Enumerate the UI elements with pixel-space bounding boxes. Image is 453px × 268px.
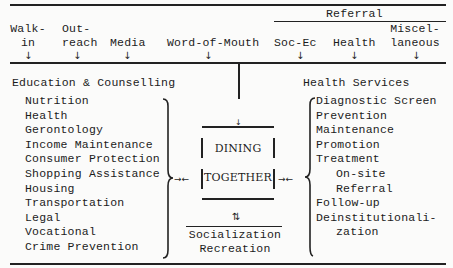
arrow-down-icon: ↓ bbox=[24, 51, 32, 61]
arrow-down-icon: ↓ bbox=[204, 51, 212, 61]
source-media: Media bbox=[110, 36, 146, 50]
list-item: Prevention bbox=[316, 109, 437, 124]
list-item: Vocational bbox=[25, 225, 160, 240]
bottom-rule bbox=[10, 263, 446, 265]
source-word-of-mouth: Word-of-Mouth bbox=[167, 36, 259, 50]
list-item: Follow-up bbox=[316, 196, 437, 211]
right-brace-icon bbox=[162, 98, 174, 260]
dining-box-top bbox=[202, 126, 274, 128]
arrow-down-icon: ↓ bbox=[73, 51, 81, 61]
socialization-label: Socialization bbox=[180, 228, 290, 242]
list-item: Nutrition bbox=[25, 94, 160, 109]
list-item: Diagnostic Screen bbox=[316, 94, 437, 109]
source-miscellaneous: Miscel- laneous bbox=[386, 22, 444, 50]
list-item: Health bbox=[25, 109, 160, 124]
list-item: zation bbox=[316, 225, 437, 240]
source-soc-ec: Soc-Ec bbox=[274, 36, 317, 50]
arrows-bidirectional-icon: →← bbox=[278, 174, 293, 184]
list-item: Treatment bbox=[316, 152, 437, 167]
list-item: Shopping Assistance bbox=[25, 167, 160, 182]
list-item: Promotion bbox=[316, 138, 437, 153]
dining-label: DINING bbox=[202, 142, 274, 156]
list-item: Crime Prevention bbox=[25, 240, 160, 255]
list-item: On-site bbox=[316, 167, 437, 182]
education-list: Nutrition Health Gerontology Income Main… bbox=[25, 94, 160, 255]
arrow-down-icon: ↓ bbox=[123, 51, 131, 61]
list-item: Housing bbox=[25, 182, 160, 197]
arrow-down-icon: ↓ bbox=[412, 51, 420, 61]
list-item: Income Maintenance bbox=[25, 138, 160, 153]
list-item: Referral bbox=[316, 182, 437, 197]
list-item: Deinstitutionali- bbox=[316, 211, 437, 226]
list-item: Transportation bbox=[25, 196, 160, 211]
arrows-up-down-icon: ⇅ bbox=[232, 212, 240, 222]
source-outreach: Out- reach bbox=[62, 22, 98, 50]
list-item: Maintenance bbox=[316, 123, 437, 138]
dining-box-bottom bbox=[202, 198, 274, 200]
source-walk-in: Walk- in bbox=[10, 22, 46, 50]
health-services-title: Health Services bbox=[303, 76, 410, 90]
arrow-down-icon: ↓ bbox=[350, 51, 358, 61]
arrow-down-icon: ↓ bbox=[296, 51, 304, 61]
left-brace-icon bbox=[304, 97, 316, 257]
source-collector-rule bbox=[10, 62, 446, 64]
list-item: Gerontology bbox=[25, 123, 160, 138]
top-rule bbox=[10, 4, 446, 6]
list-item: Legal bbox=[25, 211, 160, 226]
socialization-rule bbox=[186, 226, 282, 227]
recreation-label: Recreation bbox=[180, 242, 290, 256]
connector-line bbox=[238, 63, 240, 99]
health-services-list: Diagnostic Screen Prevention Maintenance… bbox=[316, 94, 437, 240]
arrows-bidirectional-icon: →← bbox=[174, 174, 189, 184]
list-item: Consumer Protection bbox=[25, 152, 160, 167]
education-title: Education & Counselling bbox=[12, 76, 175, 90]
referral-heading: Referral bbox=[326, 7, 383, 21]
source-health: Health bbox=[333, 36, 376, 50]
together-label: TOGETHER bbox=[202, 171, 274, 185]
